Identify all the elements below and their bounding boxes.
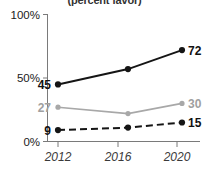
series-black-start-label: 45 [38,78,52,92]
series-gray-point-2017 [125,111,130,116]
x-axis-label-2012: 2012 [44,150,72,164]
series-dashed-point-2021 [179,119,185,125]
series-black-point-2021 [179,47,185,53]
series-gray-end-label: 30 [188,97,202,111]
x-axis-label-2016: 2016 [104,150,132,164]
x-axis-label-2020: 2020 [163,150,191,164]
series-dashed-start-label: 9 [44,124,51,138]
series-dashed-point-2017 [125,125,131,131]
series-gray-solid-line [58,103,182,113]
chart-container: (percent favor) 100% 50% 0% 2012 2016 20… [0,0,209,172]
y-axis-label-100: 100% [11,9,40,21]
series-black-point-2017 [125,66,131,72]
series-black-solid-line [58,50,182,84]
series-gray-point-2012 [55,105,60,110]
y-axis-label-0: 0% [23,136,40,148]
line-chart-svg: 100% 50% 0% 2012 2016 2020 27 30 45 72 9… [0,0,209,172]
series-dashed-point-2012 [55,127,61,133]
y-axis-label-50: 50% [17,72,40,84]
series-dashed-end-label: 15 [188,116,202,130]
series-black-point-2012 [55,81,61,87]
series-gray-start-label: 27 [38,101,52,115]
series-gray-point-2021 [179,101,184,106]
series-dashed-line [58,123,182,131]
series-black-end-label: 72 [188,44,202,58]
